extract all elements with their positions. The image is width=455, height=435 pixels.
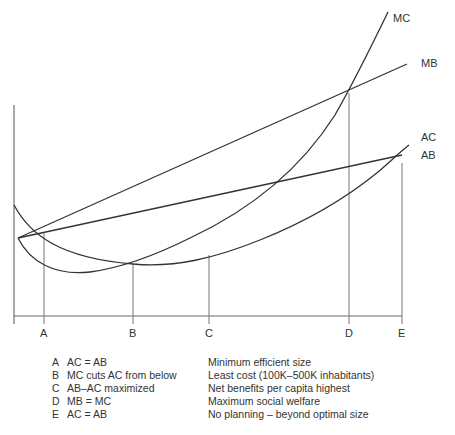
mc-curve [18,12,388,273]
legend-condition: AC = AB [67,408,208,421]
tick-b: B [129,327,136,339]
legend-key: A [52,356,67,369]
legend-meaning: No planning – beyond optimal size [208,408,369,421]
legend-key: E [52,408,67,421]
label-mc: MC [393,12,410,24]
tick-e: E [398,327,405,339]
tick-d: D [345,327,353,339]
legend-key: B [52,369,67,382]
ac-curve [14,145,409,265]
legend-meaning: Minimum efficient size [208,356,311,369]
legend-row: C AB–AC maximized Net benefits per capit… [52,382,374,395]
legend-row: D MB = MC Maximum social welfare [52,395,374,408]
legend-meaning: Maximum social welfare [208,395,320,408]
legend-row: B MC cuts AC from below Least cost (100K… [52,369,374,382]
legend-key: C [52,382,67,395]
legend-condition: AC = AB [67,356,208,369]
tick-c: C [205,327,213,339]
legend-meaning: Net benefits per capita highest [208,382,350,395]
legend-row: E AC = AB No planning – beyond optimal s… [52,408,374,421]
label-ac: AC [421,131,436,143]
tick-a: A [40,327,47,339]
legend-meaning: Least cost (100K–500K inhabitants) [208,369,374,382]
legend: A AC = AB Minimum efficient size B MC cu… [52,356,374,421]
legend-key: D [52,395,67,408]
legend-condition: MC cuts AC from below [67,369,208,382]
label-mb: MB [421,57,438,69]
label-ab: AB [421,149,436,161]
legend-row: A AC = AB Minimum efficient size [52,356,374,369]
legend-condition: AB–AC maximized [67,382,208,395]
legend-condition: MB = MC [67,395,208,408]
